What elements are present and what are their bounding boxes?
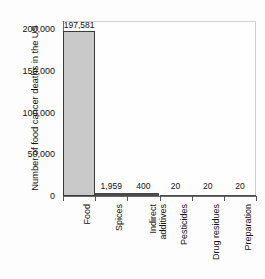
bar [63, 31, 95, 196]
y-tick-label: 150,000 [9, 66, 55, 76]
bar-chart: Number of food cancer deaths in the US 0… [0, 0, 265, 279]
bar-value-label: 400 [136, 181, 150, 191]
bar-value-label: 1,959 [101, 181, 122, 191]
x-tick-mark [95, 196, 96, 201]
x-tick-mark [256, 196, 257, 201]
y-axis-tick-labels: 050,000100,000150,000200,000 [9, 0, 55, 279]
category-label-line: Preparation [243, 204, 253, 251]
bar-value-label: 20 [171, 181, 180, 191]
bar [224, 195, 256, 197]
x-tick-mark [160, 196, 161, 201]
x-tick-mark [192, 196, 193, 201]
bar [95, 193, 127, 196]
bar [192, 195, 224, 197]
category-label-line: Drug residues [211, 204, 221, 260]
x-axis-category-label: Food [82, 204, 92, 225]
x-tick-mark [224, 196, 225, 201]
x-axis-category-label: Preparation [243, 204, 253, 251]
x-axis-category-label: Spices [114, 204, 124, 231]
bar [160, 195, 192, 197]
category-label-line: Pesticides [179, 204, 189, 245]
y-tick-label: 200,000 [9, 24, 55, 34]
category-label-line: Food [82, 204, 92, 225]
y-tick-label: 50,000 [9, 149, 55, 159]
x-tick-mark [127, 196, 128, 201]
x-axis-category-label: Indirectadditives [148, 204, 168, 240]
bar-value-label: 197,581 [64, 20, 95, 30]
x-tick-mark [63, 196, 64, 201]
category-label-line: additives [158, 204, 168, 240]
bar-value-label: 20 [235, 181, 244, 191]
x-axis-category-label: Drug residues [211, 204, 221, 260]
bar [127, 193, 159, 196]
category-label-line: Spices [114, 204, 124, 231]
bar-value-label: 20 [203, 181, 212, 191]
category-label-line: Indirect [148, 204, 158, 234]
y-tick-label: 0 [9, 191, 55, 201]
bars-layer [63, 21, 256, 196]
y-tick-label: 100,000 [9, 108, 55, 118]
x-axis-category-label: Pesticides [179, 204, 189, 245]
